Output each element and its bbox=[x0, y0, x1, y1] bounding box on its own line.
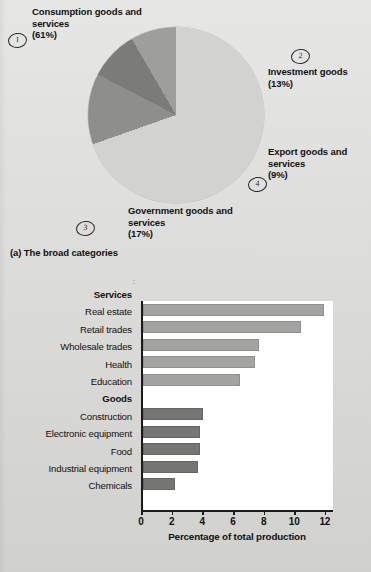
pie-graphic bbox=[88, 27, 264, 203]
bar-chart-bar bbox=[143, 321, 301, 333]
bar-chart-category-label: Health bbox=[105, 359, 132, 371]
x-axis-tick-label: 2 bbox=[169, 516, 174, 527]
pie-label-investment-text: Investment goods bbox=[268, 66, 348, 77]
pie-label-export-text: Export goods and services bbox=[268, 146, 347, 169]
bar-chart-row bbox=[143, 478, 175, 490]
bar-chart-bar bbox=[143, 461, 198, 473]
bar-chart-category-label: Chemicals bbox=[89, 480, 132, 492]
pie-label-investment-value: (13%) bbox=[268, 78, 293, 89]
bar-chart-bar bbox=[143, 478, 175, 490]
bar-chart-row bbox=[143, 374, 240, 386]
x-axis-tick bbox=[325, 510, 327, 515]
bar-chart-group-label: Services bbox=[94, 289, 132, 301]
bar-chart-group-label: Goods bbox=[102, 393, 132, 405]
pie-label-consumption-value: (61%) bbox=[32, 29, 57, 40]
pie-label-government-value: (17%) bbox=[128, 228, 153, 239]
bar-chart-bar bbox=[143, 426, 200, 438]
x-axis-tick-label: 6 bbox=[230, 516, 235, 527]
pie-label-government-text: Government goods and services bbox=[128, 205, 233, 228]
pie-label-consumption: Consumption goods and services (61%) bbox=[32, 6, 152, 41]
bar-chart-category-label: Industrial equipment bbox=[49, 463, 132, 475]
bar-chart-row bbox=[143, 426, 200, 438]
bar-chart-plot-area bbox=[141, 301, 333, 510]
bar-chart-bar bbox=[143, 304, 324, 316]
x-axis-tick-label: 10 bbox=[289, 516, 300, 527]
marker-3-icon: 3 bbox=[75, 220, 96, 237]
x-axis-line bbox=[141, 510, 333, 512]
bar-chart-row bbox=[143, 443, 200, 455]
x-axis-tick-label: 4 bbox=[200, 516, 205, 527]
bar-chart-category-label: Construction bbox=[80, 411, 132, 423]
x-axis-tick bbox=[172, 510, 174, 515]
marker-4-icon: 4 bbox=[247, 176, 268, 193]
marker-1-icon: 1 bbox=[7, 32, 28, 49]
decorative-dots-icon: : bbox=[133, 280, 135, 284]
x-axis-tick bbox=[141, 510, 143, 515]
bar-chart-category-label: Real estate bbox=[85, 306, 132, 318]
bar-chart-bar bbox=[143, 443, 200, 455]
x-axis-tick-label: 8 bbox=[261, 516, 266, 527]
bar-chart-bar bbox=[143, 374, 240, 386]
x-axis-tick bbox=[233, 510, 235, 515]
pie-chart bbox=[88, 27, 264, 203]
x-axis-tick-label: 12 bbox=[319, 516, 330, 527]
bar-chart-row bbox=[143, 356, 255, 368]
x-axis-tick bbox=[294, 510, 296, 515]
panel-a-caption: (a) The broad categories bbox=[10, 247, 118, 258]
pie-label-export: Export goods and services (9%) bbox=[268, 146, 358, 181]
pie-label-export-value: (9%) bbox=[268, 169, 288, 180]
pie-label-consumption-text: Consumption goods and services bbox=[32, 6, 142, 29]
marker-2-icon: 2 bbox=[290, 48, 311, 65]
bar-chart-category-label: Retail trades bbox=[80, 324, 132, 336]
bar-chart-category-label: Electronic equipment bbox=[45, 428, 132, 440]
bar-chart-category-label: Wholesale trades bbox=[60, 341, 132, 353]
pie-label-government: Government goods and services (17%) bbox=[128, 205, 248, 240]
x-axis-tick bbox=[264, 510, 266, 515]
bar-chart-bar bbox=[143, 356, 255, 368]
bar-chart-bar bbox=[143, 339, 259, 351]
bar-chart-row bbox=[143, 461, 198, 473]
bar-chart-bar bbox=[143, 408, 203, 420]
bar-chart-category-label: Food bbox=[111, 446, 132, 458]
bar-chart-row bbox=[143, 321, 301, 333]
x-axis-title: Percentage of total production bbox=[141, 531, 333, 542]
bar-chart-row bbox=[143, 339, 259, 351]
bar-chart-row bbox=[143, 408, 203, 420]
x-axis-tick bbox=[202, 510, 204, 515]
x-axis-tick-label: 0 bbox=[138, 516, 143, 527]
panel-a-pie-chart: 1 2 3 4 Consumption goods and services (… bbox=[0, 0, 371, 272]
panel-b-bar-chart: : ServicesReal estateRetail tradesWholes… bbox=[0, 278, 371, 572]
bar-chart-category-label: Education bbox=[91, 376, 132, 388]
pie-label-investment: Investment goods (13%) bbox=[268, 66, 364, 89]
bar-chart-row bbox=[143, 304, 324, 316]
